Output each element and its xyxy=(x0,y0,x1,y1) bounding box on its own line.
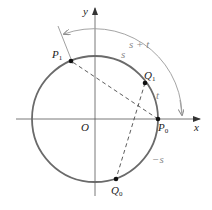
unit-circle-diagram: x y O P0 Q1 P1 Q0 s + t s t −s xyxy=(0,0,212,210)
x-axis-label: x xyxy=(193,121,199,133)
arc-label-s: s xyxy=(121,48,125,60)
label-p1: P1 xyxy=(51,48,63,62)
y-axis-label: y xyxy=(82,5,88,17)
chord-q1-q0 xyxy=(116,83,145,179)
point-p1 xyxy=(69,59,74,64)
origin-label: O xyxy=(81,121,89,133)
label-p0: P0 xyxy=(157,121,169,135)
arc-label-minus-s: −s xyxy=(152,153,164,165)
point-q0 xyxy=(114,177,119,182)
label-q0: Q0 xyxy=(111,184,123,198)
point-q1 xyxy=(143,81,148,86)
label-q1: Q1 xyxy=(144,69,156,83)
arc-label-t: t xyxy=(156,89,160,101)
arc-s-plus-t xyxy=(64,29,182,113)
arc-label-s-plus-t: s + t xyxy=(129,38,150,50)
